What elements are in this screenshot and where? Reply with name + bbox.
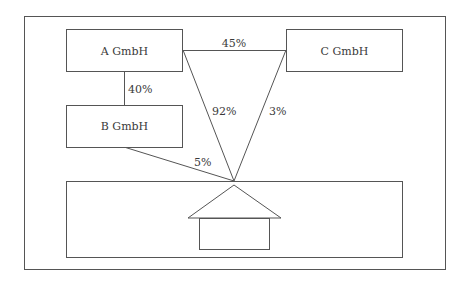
edge-a-property-label: 92% [212, 105, 236, 118]
edge-a-c-label: 45% [222, 37, 246, 50]
property-box [67, 182, 403, 258]
entity-b-label: B GmbH [101, 120, 148, 133]
ownership-diagram: A GmbH B GmbH C GmbH 40% 45% 92% 3% 5% [0, 0, 467, 284]
entity-c: C GmbH [287, 30, 403, 72]
house-icon [188, 185, 281, 250]
entity-c-label: C GmbH [321, 45, 369, 58]
edge-b-property-label: 5% [194, 156, 211, 169]
edge-c-property-label: 3% [269, 105, 286, 118]
edge-b-property [124, 147, 234, 181]
entity-a: A GmbH [67, 30, 183, 72]
entity-a-label: A GmbH [100, 45, 148, 58]
entity-b: B GmbH [67, 106, 183, 148]
edge-a-b-label: 40% [128, 83, 152, 96]
